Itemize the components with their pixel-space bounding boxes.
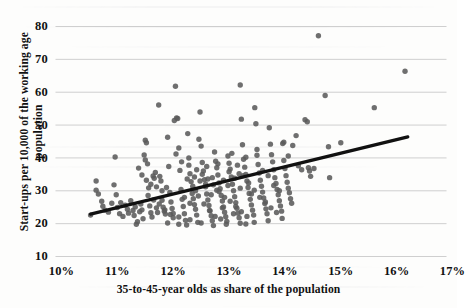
scatter-point <box>197 109 202 114</box>
scatter-point <box>155 210 160 215</box>
scatter-point <box>192 174 197 179</box>
scatter-point <box>224 222 229 227</box>
scatter-point <box>135 219 140 224</box>
scatter-point <box>254 153 259 158</box>
scatter-point <box>187 201 192 206</box>
scatter-point <box>227 199 232 204</box>
scatter-point <box>239 116 244 121</box>
scatter-point <box>278 203 283 208</box>
scatter-point <box>198 143 203 148</box>
x-axis-tick-label: 15% <box>313 265 369 278</box>
scatter-point <box>245 185 250 190</box>
scatter-point <box>263 199 268 204</box>
scatter-point <box>289 201 294 206</box>
scatter-point <box>212 149 217 154</box>
scatter-point <box>198 220 203 225</box>
scatter-point <box>176 214 181 219</box>
scatter-point <box>185 131 190 136</box>
scatter-point <box>157 201 162 206</box>
scatter-point <box>233 204 238 209</box>
scatter-point <box>159 188 164 193</box>
scatter-point <box>139 172 144 177</box>
scatter-point <box>281 158 286 163</box>
scatter-point <box>196 193 201 198</box>
scatter-point <box>270 159 275 164</box>
scatter-point <box>141 152 146 157</box>
scatter-point <box>184 176 189 181</box>
scatter-point <box>293 133 298 138</box>
scatter-point <box>253 121 258 126</box>
scatter-point <box>283 173 288 178</box>
scatter-point <box>193 206 198 211</box>
scatter-point <box>277 198 282 203</box>
scatter-point <box>249 202 254 207</box>
scatter-point <box>322 93 327 98</box>
scatter-point <box>218 216 223 221</box>
scatter-point <box>402 68 407 73</box>
scatter-point <box>316 33 321 38</box>
scatter-point <box>274 210 279 215</box>
scatter-point <box>176 222 181 227</box>
scatter-point <box>264 211 269 216</box>
scatter-point <box>171 215 176 220</box>
scatter-point <box>327 175 332 180</box>
scatter-point <box>226 160 231 165</box>
scatter-point <box>153 170 158 175</box>
scatter-point <box>207 208 212 213</box>
scatter-point <box>182 195 187 200</box>
scatter-point <box>236 171 241 176</box>
scatter-point <box>225 183 230 188</box>
scatter-point <box>144 178 149 183</box>
scatter-point <box>235 162 240 167</box>
scatter-point <box>290 143 295 148</box>
scatter-point <box>272 175 277 180</box>
scatter-point <box>263 206 268 211</box>
scatter-point <box>205 176 210 181</box>
scatter-point <box>166 164 171 169</box>
scatter-point <box>286 185 291 190</box>
scatter-point <box>214 187 219 192</box>
x-axis-tick-label: 13% <box>201 265 257 278</box>
scatter-point <box>157 174 162 179</box>
scatter-point <box>184 222 189 227</box>
scatter-point <box>287 190 292 195</box>
scatter-point <box>252 220 257 225</box>
scatter-point <box>169 206 174 211</box>
scatter-point <box>305 119 310 124</box>
scatter-point <box>197 178 202 183</box>
scatter-point <box>96 191 101 196</box>
scatter-point <box>372 105 377 110</box>
scatter-point <box>165 220 170 225</box>
scatter-point <box>215 172 220 177</box>
scatter-points <box>88 33 408 228</box>
scatter-point <box>136 165 141 170</box>
scatter-point <box>279 216 284 221</box>
x-axis-title: 35-to-45-year olds as share of the popul… <box>0 283 457 296</box>
scatter-point <box>248 197 253 202</box>
scatter-point <box>249 191 254 196</box>
scatter-point <box>156 102 161 107</box>
scatter-point <box>238 221 243 226</box>
scatter-point <box>200 172 205 177</box>
y-axis-title: Start-ups per 10,000 of the working age … <box>18 14 45 250</box>
scatter-point <box>112 154 117 159</box>
scatter-point <box>120 214 125 219</box>
scatter-point <box>265 173 270 178</box>
scatter-point <box>238 185 243 190</box>
scatter-point <box>158 178 163 183</box>
scatter-point <box>252 105 257 110</box>
scatter-point <box>148 182 153 187</box>
y-axis-title-line1: Start-ups per 10,000 of the working age <box>18 32 31 231</box>
scatter-point <box>186 162 191 167</box>
scatter-point <box>114 192 119 197</box>
scatter-point <box>173 151 178 156</box>
x-axis-tick-label: 17% <box>425 265 469 278</box>
scatter-point <box>145 193 150 198</box>
scatter-point <box>307 168 312 173</box>
scatter-point <box>196 137 201 142</box>
scatter-point <box>215 161 220 166</box>
scatter-point <box>231 188 236 193</box>
scatter-point <box>179 159 184 164</box>
scatter-point <box>251 212 256 217</box>
scatter-point <box>206 203 211 208</box>
